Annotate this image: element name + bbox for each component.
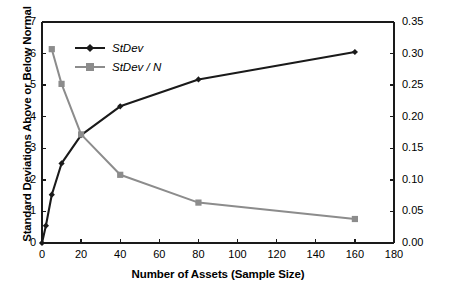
y-tick-right-4: 0.20 — [402, 110, 442, 122]
data-point-s0-6 — [195, 76, 201, 82]
y-tick-right-7: 0.35 — [402, 15, 442, 27]
y-tick-right-1: 0.05 — [402, 204, 442, 216]
y-tick-right-0: 0.00 — [402, 236, 442, 248]
x-tick-8: 160 — [335, 248, 375, 260]
legend-item-stdev: StDev — [75, 38, 161, 57]
x-tick-5: 100 — [218, 248, 258, 260]
data-point-s1-0 — [49, 46, 55, 52]
y-tick-left-7: 7 — [6, 15, 36, 27]
x-tick-7: 140 — [296, 248, 336, 260]
y-tick-right-3: 0.15 — [402, 141, 442, 153]
x-tick-1: 20 — [61, 248, 101, 260]
legend-label-stdev: StDev — [112, 42, 143, 54]
data-point-s1-4 — [195, 199, 201, 205]
y-tick-right-6: 0.30 — [402, 47, 442, 59]
data-point-s0-7 — [352, 49, 358, 55]
legend-key-stdev-over-n — [75, 61, 105, 73]
data-point-s1-5 — [352, 216, 358, 222]
x-tick-9: 180 — [374, 248, 414, 260]
legend-label-stdev-over-n: StDev / N — [112, 61, 161, 73]
legend-item-stdev-over-n: StDev / N — [75, 57, 161, 76]
square-marker-icon — [86, 63, 94, 71]
data-point-s0-0 — [39, 240, 45, 246]
y-tick-left-2: 2 — [6, 173, 36, 185]
data-point-s1-1 — [58, 81, 64, 87]
data-series-layer — [39, 46, 358, 246]
x-tick-4: 80 — [178, 248, 218, 260]
y-tick-left-0: 0 — [6, 236, 36, 248]
y-tick-left-1: 1 — [6, 204, 36, 216]
diamond-marker-icon — [86, 43, 94, 51]
data-point-s1-2 — [78, 131, 84, 137]
data-point-s0-2 — [49, 192, 55, 198]
x-tick-0: 0 — [22, 248, 62, 260]
y-tick-left-6: 6 — [6, 47, 36, 59]
x-tick-6: 120 — [257, 248, 297, 260]
legend-key-stdev — [75, 42, 105, 54]
data-point-s1-3 — [117, 172, 123, 178]
x-axis-title: Number of Assets (Sample Size) — [42, 268, 394, 280]
y-tick-left-4: 4 — [6, 110, 36, 122]
plot-canvas — [0, 0, 449, 287]
chart-figure: Standard Deviations Above or Below Norma… — [0, 0, 449, 287]
data-point-s0-1 — [43, 223, 49, 229]
y-tick-left-3: 3 — [6, 141, 36, 153]
y-tick-left-5: 5 — [6, 78, 36, 90]
chart-legend: StDev StDev / N — [75, 38, 161, 76]
y-tick-right-5: 0.25 — [402, 78, 442, 90]
y-tick-right-2: 0.10 — [402, 173, 442, 185]
x-tick-3: 60 — [139, 248, 179, 260]
x-tick-2: 40 — [100, 248, 140, 260]
